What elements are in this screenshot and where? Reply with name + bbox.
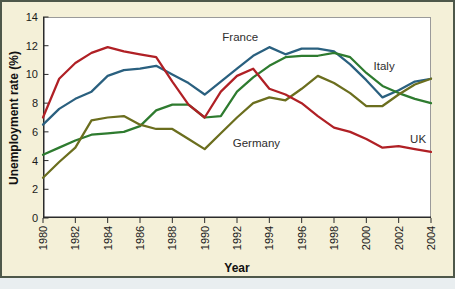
series-label-france: France (222, 31, 258, 43)
x-tick-label: 1984 (102, 226, 114, 250)
y-tick-label: 4 (12, 154, 38, 168)
x-tick-label: 1994 (263, 226, 275, 250)
plot-area: FranceItalyGermanyUK (43, 17, 431, 218)
y-tick-label: 10 (12, 67, 38, 81)
series-label-italy: Italy (374, 60, 395, 72)
x-tick-label: 1980 (37, 226, 49, 250)
x-tick-label: 1992 (231, 226, 243, 250)
series-line-france (43, 47, 431, 125)
x-tick-label: 2002 (393, 226, 405, 250)
x-tick-label: 1996 (296, 226, 308, 250)
y-tick-label: 8 (12, 96, 38, 110)
x-axis-title: Year (224, 261, 249, 275)
series-label-germany: Germany (233, 137, 280, 149)
x-tick-label: 2004 (425, 226, 437, 250)
series-label-uk: UK (410, 133, 426, 145)
unemployment-chart-figure: Unemployment rate (%) Year FranceItalyGe… (0, 0, 455, 278)
page-background: Unemployment rate (%) Year FranceItalyGe… (0, 0, 455, 289)
y-tick-label: 0 (12, 211, 38, 225)
x-tick-label: 1982 (69, 226, 81, 250)
x-tick-label: 1990 (199, 226, 211, 250)
x-tick-label: 2000 (360, 226, 372, 250)
y-tick-label: 6 (12, 125, 38, 139)
x-tick-label: 1998 (328, 226, 340, 250)
y-tick-label: 14 (12, 10, 38, 24)
plot-svg (43, 17, 431, 218)
y-tick-label: 12 (12, 39, 38, 53)
x-tick-label: 1988 (166, 226, 178, 250)
x-tick-label: 1986 (134, 226, 146, 250)
y-tick-label: 2 (12, 182, 38, 196)
